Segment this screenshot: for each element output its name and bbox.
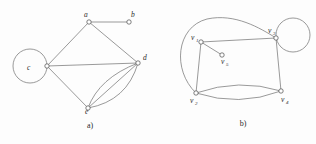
edge-a-d: [89, 22, 138, 63]
vertex-label-c: c: [27, 63, 31, 72]
vertex-label-b: b: [131, 10, 135, 19]
self-loop-v3: [276, 18, 310, 52]
edge-e-d-straight: [88, 63, 138, 108]
vertex-v4[interactable]: [279, 89, 283, 93]
vertex-b[interactable]: [127, 20, 131, 24]
svg-text:v: v: [191, 33, 195, 42]
edge-v2-v3-outer-arc: [180, 18, 276, 93]
svg-text:1: 1: [196, 38, 199, 43]
svg-text:4: 4: [286, 100, 289, 105]
panel-caption-a: a): [87, 121, 94, 130]
svg-text:2: 2: [195, 101, 198, 106]
edge-v2-v4-curve-upper: [196, 85, 281, 93]
panel-a: a b c d e a): [13, 10, 147, 130]
edge-v1-v3: [201, 38, 276, 42]
vertex-label-v5: v 5: [221, 57, 229, 67]
edge-a-c: [47, 22, 89, 66]
svg-text:v: v: [281, 95, 285, 104]
vertex-label-a: a: [84, 10, 88, 19]
svg-text:5: 5: [226, 62, 229, 67]
vertex-label-d: d: [143, 53, 147, 62]
edge-v1-v5: [201, 42, 222, 55]
vertex-label-v3: v 3: [268, 26, 276, 36]
edge-c-d: [47, 63, 138, 66]
vertex-d[interactable]: [136, 61, 140, 65]
vertex-label-v1: v 1: [191, 33, 199, 43]
graph-figure: a b c d e a): [0, 0, 316, 144]
figure-canvas: a b c d e a): [0, 0, 316, 144]
panel-caption-b: b): [240, 119, 247, 128]
svg-text:v: v: [268, 26, 272, 35]
vertex-label-v2: v 2: [190, 96, 198, 106]
edge-v2-v4-curve-lower: [196, 91, 281, 100]
vertex-v1[interactable]: [199, 40, 203, 44]
vertex-a[interactable]: [87, 20, 91, 24]
edge-c-e: [47, 66, 88, 108]
svg-text:3: 3: [273, 31, 276, 36]
panel-b: v 1 v 2 v 3 v 4 v 5 b): [180, 18, 310, 128]
edge-v1-v2: [196, 42, 201, 93]
vertex-v3[interactable]: [274, 36, 278, 40]
vertex-label-v4: v 4: [281, 95, 289, 105]
vertex-v2[interactable]: [194, 91, 198, 95]
svg-text:v: v: [190, 96, 194, 105]
svg-text:v: v: [221, 57, 225, 66]
vertex-c[interactable]: [45, 64, 49, 68]
